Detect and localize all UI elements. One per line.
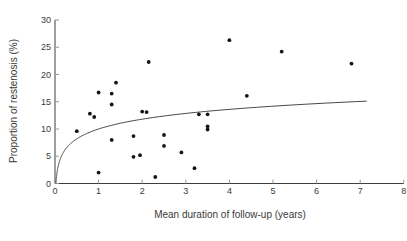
y-tick-label: 20 bbox=[41, 70, 51, 80]
y-tick-label: 25 bbox=[41, 42, 51, 52]
data-point bbox=[140, 110, 144, 114]
data-point bbox=[245, 94, 249, 98]
data-point bbox=[138, 153, 142, 157]
data-point bbox=[197, 112, 201, 116]
data-point bbox=[147, 60, 151, 64]
y-tick-label: 15 bbox=[41, 97, 51, 107]
x-tick-label: 4 bbox=[227, 186, 232, 196]
y-tick-label: 5 bbox=[46, 151, 51, 161]
x-tick-label: 0 bbox=[52, 186, 57, 196]
data-point bbox=[228, 38, 232, 42]
data-point bbox=[162, 133, 166, 137]
fit-curve bbox=[56, 101, 367, 183]
x-tick-label: 8 bbox=[401, 186, 406, 196]
x-tick-label: 6 bbox=[314, 186, 319, 196]
figure: 012345678051015202530 Proportion of rest… bbox=[0, 0, 407, 241]
data-point bbox=[114, 81, 118, 85]
chart-svg: 012345678051015202530 bbox=[0, 0, 407, 241]
x-tick-label: 1 bbox=[96, 186, 101, 196]
data-point bbox=[132, 155, 136, 159]
data-point bbox=[88, 112, 92, 116]
data-point bbox=[153, 175, 157, 179]
y-tick-label: 30 bbox=[41, 15, 51, 25]
data-point bbox=[206, 128, 210, 132]
data-point bbox=[206, 112, 210, 116]
data-point bbox=[75, 129, 79, 133]
data-point bbox=[280, 50, 284, 54]
data-point bbox=[162, 144, 166, 148]
y-tick-label: 0 bbox=[46, 179, 51, 189]
data-point bbox=[110, 92, 114, 96]
y-tick-label: 10 bbox=[41, 124, 51, 134]
y-axis-label: Proportion of restenosis (%) bbox=[8, 6, 20, 196]
x-axis-label: Mean duration of follow-up (years) bbox=[56, 209, 404, 221]
x-tick-label: 3 bbox=[183, 186, 188, 196]
data-point bbox=[193, 166, 197, 170]
data-point bbox=[97, 171, 101, 175]
data-point bbox=[110, 103, 114, 107]
x-tick-label: 2 bbox=[140, 186, 145, 196]
data-point bbox=[180, 151, 184, 155]
data-point bbox=[132, 134, 136, 138]
data-point bbox=[97, 91, 101, 95]
data-point bbox=[350, 62, 354, 66]
x-tick-label: 7 bbox=[358, 186, 363, 196]
data-point bbox=[145, 110, 149, 114]
x-tick-label: 5 bbox=[270, 186, 275, 196]
data-point bbox=[92, 115, 96, 119]
data-point bbox=[110, 138, 114, 142]
